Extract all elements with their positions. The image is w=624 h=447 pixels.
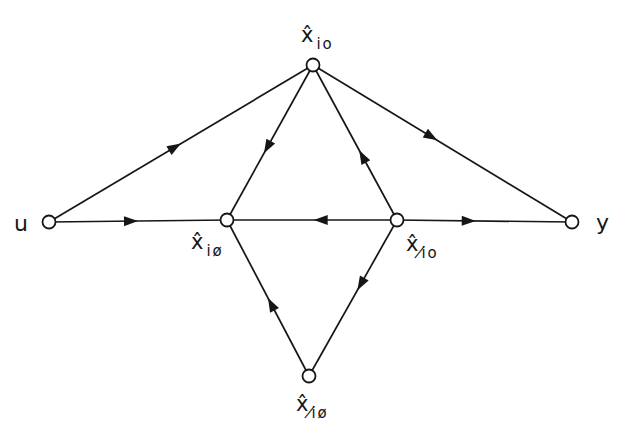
node-y — [566, 216, 579, 229]
node-x-islash-o — [391, 214, 404, 227]
label-x-io: x̂io — [301, 23, 334, 53]
edge-x-islash-o-to-x-io — [313, 65, 397, 220]
edge-x-islash-o-to-y — [397, 220, 572, 222]
node-x-islash-oslash — [303, 370, 316, 383]
label-x-islash-o: x̂i̸o — [406, 232, 439, 262]
label-u: u — [14, 211, 28, 236]
label-y: y — [596, 210, 609, 235]
arrowhead-x-islash-oslash-to-x-i-oslash — [264, 296, 279, 313]
arrowhead-x-io-to-y — [423, 129, 440, 145]
arrowhead-x-islash-o-to-x-io — [355, 148, 370, 165]
arrowhead-u-to-x-io — [166, 139, 183, 155]
edge-x-islash-o-to-x-islash-oslash — [309, 220, 397, 376]
arrowhead-x-islash-o-to-y — [462, 216, 476, 226]
arrowhead-x-io-to-x-i-oslash — [260, 139, 276, 156]
arrowhead-x-islash-o-to-x-islash-oslash — [353, 276, 369, 293]
flow-graph-figure: ux̂iox̂iøx̂i̸ox̂i̸øy — [0, 0, 624, 447]
flow-graph-svg: ux̂iox̂iøx̂i̸ox̂i̸øy — [0, 0, 624, 447]
label-x-i-oslash: x̂iø — [191, 230, 224, 260]
node-u — [43, 216, 56, 229]
arrowhead-x-islash-o-to-x-i-oslash — [314, 215, 328, 225]
node-x-i-oslash — [221, 214, 234, 227]
arrowhead-u-to-x-i-oslash — [124, 216, 138, 226]
node-x-io — [307, 59, 320, 72]
edge-x-io-to-y — [313, 65, 572, 222]
label-x-islash-oslash: x̂i̸ø — [296, 392, 329, 422]
